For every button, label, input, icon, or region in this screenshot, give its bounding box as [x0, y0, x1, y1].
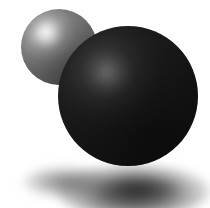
- large-sphere-contact-shadow: [96, 176, 182, 202]
- small-sphere-shadow: [22, 166, 108, 198]
- large-sphere-shadow: [56, 164, 210, 208]
- render-canvas: [0, 0, 210, 208]
- large-sphere: [58, 26, 198, 166]
